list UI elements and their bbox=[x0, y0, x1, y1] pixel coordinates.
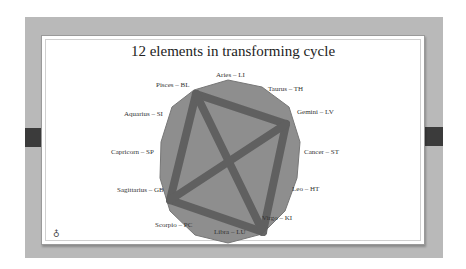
node-label-cancer: Cancer – ST bbox=[304, 148, 339, 156]
footer-symbol-icon: ♁ bbox=[53, 228, 60, 238]
node-label-pisces: Pisces – BL bbox=[156, 81, 189, 89]
node-label-leo: Leo – HT bbox=[292, 185, 319, 193]
node-label-virgo: Virgo – KI bbox=[262, 214, 292, 222]
node-label-taurus: Taurus – TH bbox=[268, 85, 303, 93]
node-label-scorpio: Scorpio – PC bbox=[155, 221, 192, 229]
node-label-gemini: Gemini – LV bbox=[297, 108, 334, 116]
node-label-capricorn: Capricorn – SP bbox=[111, 148, 154, 156]
node-label-libra: Libra – LU bbox=[214, 228, 246, 236]
node-label-aries: Aries – LI bbox=[216, 71, 245, 79]
node-label-aquarius: Aquarius – SI bbox=[124, 110, 163, 118]
node-label-sagittarius: Sagittarius – GB bbox=[117, 186, 164, 194]
